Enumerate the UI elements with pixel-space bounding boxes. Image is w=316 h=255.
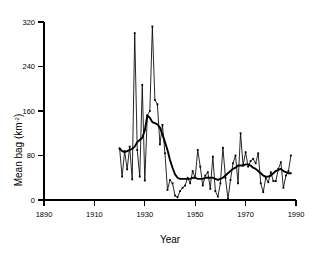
data-point xyxy=(192,170,194,172)
y-tick-label: 0 xyxy=(31,196,35,205)
data-point xyxy=(222,147,224,149)
data-point xyxy=(227,198,229,200)
data-point xyxy=(174,195,176,197)
data-point xyxy=(285,175,287,177)
y-tick-label: 320 xyxy=(22,18,35,27)
x-tick-label: 1970 xyxy=(237,210,254,219)
data-point xyxy=(189,182,191,184)
data-point xyxy=(159,143,161,145)
data-point xyxy=(270,171,272,173)
data-point xyxy=(129,146,131,148)
data-point xyxy=(235,155,237,157)
y-axis-title: Mean bag (km-2) xyxy=(13,114,24,187)
x-axis-title: Year xyxy=(160,234,181,245)
data-point xyxy=(237,182,239,184)
data-point xyxy=(255,162,257,164)
chart-figure: Mean bag (km-2) 080160240320 18901910193… xyxy=(0,0,316,255)
data-point xyxy=(250,160,252,162)
data-point xyxy=(134,32,136,34)
data-point xyxy=(267,181,269,183)
plot-area xyxy=(119,26,292,200)
data-point xyxy=(179,190,181,192)
data-point xyxy=(262,191,264,193)
data-point xyxy=(257,152,259,154)
data-point xyxy=(275,180,277,182)
data-point xyxy=(169,179,171,181)
data-point xyxy=(212,156,214,158)
data-point xyxy=(288,170,290,172)
data-point xyxy=(177,196,179,198)
data-point xyxy=(126,169,128,171)
data-point xyxy=(283,187,285,189)
x-tick-label: 1890 xyxy=(36,210,53,219)
data-point xyxy=(217,196,219,198)
mean-bag-vs-year-chart: Mean bag (km-2) 080160240320 18901910193… xyxy=(0,0,316,255)
x-tick-label: 1910 xyxy=(86,210,103,219)
data-point xyxy=(131,179,133,181)
y-axis-ticks: 080160240320 xyxy=(22,18,44,205)
annual-mean-bag-line xyxy=(120,26,291,198)
x-tick-label: 1990 xyxy=(288,210,305,219)
data-point xyxy=(172,182,174,184)
data-point xyxy=(202,185,204,187)
y-axis-title-text: Mean bag (km-2) xyxy=(13,114,24,187)
data-point xyxy=(252,158,254,160)
data-point xyxy=(167,189,169,191)
data-point xyxy=(157,103,159,105)
data-point xyxy=(260,182,262,184)
data-point xyxy=(121,176,123,178)
data-point xyxy=(280,161,282,163)
data-point xyxy=(245,151,247,153)
data-point xyxy=(144,180,146,182)
data-point xyxy=(290,155,292,157)
data-point xyxy=(230,179,232,181)
data-point xyxy=(209,188,211,190)
data-point xyxy=(151,26,153,28)
data-point xyxy=(139,176,141,178)
data-point xyxy=(204,175,206,177)
data-point xyxy=(214,190,216,192)
x-tick-label: 1930 xyxy=(136,210,153,219)
x-tick-label: 1950 xyxy=(187,210,204,219)
x-axis-ticks: 189019101930195019701990 xyxy=(36,200,305,219)
data-point xyxy=(141,84,143,86)
y-tick-label: 80 xyxy=(27,151,35,160)
y-axis-title-main: Mean bag (km xyxy=(13,122,24,186)
data-point xyxy=(162,124,164,126)
data-point xyxy=(182,187,184,189)
data-point xyxy=(199,166,201,168)
data-point xyxy=(272,180,274,182)
data-point xyxy=(207,171,209,173)
data-point xyxy=(197,149,199,151)
data-point xyxy=(247,166,249,168)
data-point xyxy=(232,162,234,164)
data-point xyxy=(240,132,242,134)
data-point xyxy=(164,152,166,154)
y-tick-label: 160 xyxy=(22,107,35,116)
y-tick-label: 240 xyxy=(22,62,35,71)
data-point xyxy=(184,185,186,187)
data-point xyxy=(154,99,156,101)
data-point xyxy=(149,110,151,112)
data-point xyxy=(136,149,138,151)
data-point xyxy=(220,182,222,184)
